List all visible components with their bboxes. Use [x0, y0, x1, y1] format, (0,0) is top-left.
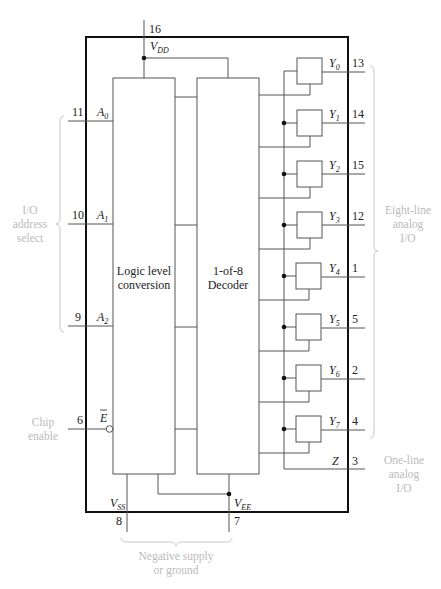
switch-y2: Y2 15	[259, 158, 365, 198]
pin-number-y6: 2	[352, 363, 358, 377]
y7-label: Y7	[329, 414, 341, 430]
switch-y6: Y6 2	[259, 363, 365, 402]
common-output-z: Z 3	[284, 454, 365, 469]
pin-number-y4: 1	[352, 261, 358, 275]
svg-text:I/O: I/O	[396, 482, 411, 494]
y4-label: Y4	[329, 261, 340, 277]
svg-text:One-line: One-line	[384, 454, 424, 466]
pin-number-vee: 7	[234, 514, 240, 528]
svg-text:Eight-line: Eight-line	[385, 204, 431, 217]
vee-label: VEE	[234, 496, 251, 512]
svg-text:analog: analog	[389, 468, 420, 481]
vss-supply: VSS 8	[110, 474, 127, 532]
svg-text:select: select	[17, 232, 44, 244]
a0-label: A0	[96, 105, 108, 121]
vss-label: VSS	[110, 496, 125, 512]
vdd-supply: 16 VDD	[142, 20, 228, 78]
decoder-label-line1: 1-of-8	[213, 264, 243, 278]
pin-number-y2: 15	[352, 158, 364, 172]
one-line-annotation: One-line analog I/O	[384, 454, 424, 494]
pin-number-a2: 9	[75, 310, 81, 324]
junction-dot	[227, 492, 232, 497]
inter-block-wires	[175, 97, 197, 429]
e-bar-label: E	[99, 411, 108, 425]
logic-block-label-line2: conversion	[118, 278, 171, 292]
pin-number-y0: 13	[352, 56, 364, 70]
y6-label: Y6	[329, 363, 340, 379]
switch-y5: Y5 5	[259, 312, 365, 351]
pin-number-y5: 5	[352, 312, 358, 326]
decoder-label-line2: Decoder	[208, 278, 249, 292]
analog-multiplexer-diagram: 16 VDD Logic level conversion 1-of-8 Dec…	[0, 0, 441, 589]
switch-y3: Y3 12	[259, 209, 365, 249]
svg-text:enable: enable	[28, 430, 58, 442]
input-a1: 10 A1	[68, 208, 113, 224]
svg-text:Negative supply: Negative supply	[138, 550, 213, 563]
y3-label: Y3	[329, 209, 340, 225]
z-label: Z	[332, 454, 339, 468]
chip-enable-annotation: Chip enable	[28, 416, 58, 442]
svg-text:analog: analog	[393, 218, 424, 231]
pin-number-y3: 12	[352, 209, 364, 223]
a2-label: A2	[96, 310, 108, 326]
svg-text:address: address	[13, 218, 48, 230]
a1-label: A1	[96, 208, 108, 224]
pin-number-a1: 10	[72, 208, 84, 222]
vee-supply: VEE 7	[158, 474, 251, 532]
svg-text:I/O: I/O	[22, 204, 37, 216]
eight-line-annotation: Eight-line analog I/O	[370, 66, 431, 438]
switch-y4: Y4 1	[259, 261, 365, 300]
y1-label: Y1	[329, 107, 340, 123]
svg-text:or ground: or ground	[153, 564, 198, 577]
svg-text:I/O: I/O	[400, 232, 415, 244]
negative-supply-annotation: Negative supply or ground	[121, 538, 232, 577]
y0-label: Y0	[329, 56, 340, 72]
switch-y0: Y0 13	[259, 56, 365, 95]
svg-text:Chip: Chip	[32, 416, 55, 429]
pin-number-y1: 14	[352, 107, 364, 121]
y2-label: Y2	[329, 158, 340, 174]
pin-number-vdd: 16	[149, 22, 161, 36]
y5-label: Y5	[329, 312, 340, 328]
switch-y1: Y1 14	[259, 107, 365, 147]
pin-number-z: 3	[352, 454, 358, 468]
logic-level-conversion-block: Logic level conversion	[113, 78, 175, 474]
input-a0: 11 A0	[68, 105, 113, 121]
input-a2: 9 A2	[68, 310, 113, 326]
decoder-block: 1-of-8 Decoder	[197, 78, 259, 474]
pin-number-vss: 8	[116, 514, 122, 528]
pin-number-e: 6	[77, 413, 83, 427]
junction-dot	[142, 56, 147, 61]
address-select-annotation: I/O address select	[13, 116, 64, 332]
switch-y7: Y7 4	[259, 414, 365, 453]
input-chip-enable: 6 E	[68, 410, 113, 432]
inversion-bubble-icon	[106, 426, 113, 433]
vdd-label: VDD	[150, 39, 169, 55]
pin-number-a0: 11	[72, 105, 84, 119]
logic-block-label-line1: Logic level	[117, 264, 172, 278]
pin-number-y7: 4	[352, 414, 358, 428]
